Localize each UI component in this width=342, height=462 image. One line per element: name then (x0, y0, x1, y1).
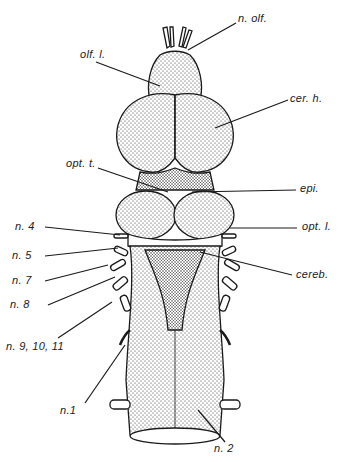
label-n-1: n.1 (60, 404, 76, 416)
label-n-4: n. 4 (15, 220, 35, 232)
label-n-olf: n. olf. (238, 12, 267, 24)
label-opt-t: opt. t. (66, 157, 96, 169)
label-n-2: n. 2 (214, 442, 234, 454)
optic-lobe-right (174, 191, 234, 239)
olfactory-lobe (148, 51, 201, 100)
label-n-7: n. 7 (12, 274, 32, 286)
label-cereb: cereb. (296, 268, 328, 280)
label-opt-l: opt. l. (302, 220, 331, 232)
optic-lobe-left (116, 191, 176, 239)
label-cer-h: cer. h. (290, 92, 322, 104)
cerebral-hemisphere-left (117, 94, 175, 173)
label-olf-l: olf. l. (80, 48, 105, 60)
label-n-5: n. 5 (12, 249, 32, 261)
olfactory-nerves (163, 27, 192, 48)
label-epi: epi. (300, 182, 319, 194)
brain-diagram (0, 0, 342, 462)
label-n-8: n. 8 (10, 298, 30, 310)
label-n-9-10-11: n. 9, 10, 11 (6, 340, 64, 352)
cerebral-hemisphere-right (175, 94, 233, 173)
